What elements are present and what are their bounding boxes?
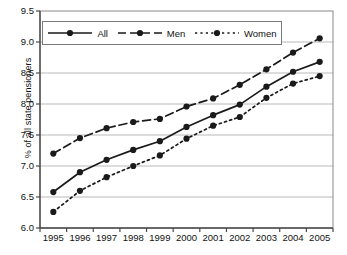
data-point <box>210 95 216 101</box>
data-point <box>77 169 83 175</box>
data-point <box>103 157 109 163</box>
legend-marker <box>137 30 143 36</box>
data-point <box>290 80 296 86</box>
chart-legend: AllMenWomen <box>42 21 282 45</box>
series-line-women <box>53 76 319 212</box>
data-point <box>183 136 189 142</box>
legend-swatch-men <box>117 27 163 39</box>
legend-label: Men <box>165 28 185 39</box>
legend-label: Women <box>242 28 277 39</box>
data-point <box>237 114 243 120</box>
data-point <box>77 188 83 194</box>
data-point <box>157 152 163 158</box>
data-point <box>50 189 56 195</box>
data-point <box>130 119 136 125</box>
legend-item-men[interactable]: Men <box>117 27 185 39</box>
data-point <box>130 147 136 153</box>
data-point <box>263 84 269 90</box>
data-point <box>290 69 296 75</box>
data-point <box>263 95 269 101</box>
legend-label: All <box>95 28 108 39</box>
data-point <box>317 73 323 79</box>
legend-marker <box>214 30 220 36</box>
data-point <box>237 82 243 88</box>
data-point <box>210 112 216 118</box>
data-point <box>317 35 323 41</box>
data-point <box>263 66 269 72</box>
legend-item-all[interactable]: All <box>47 27 108 39</box>
data-point <box>103 125 109 131</box>
data-point <box>183 124 189 130</box>
data-point <box>50 151 56 157</box>
legend-item-women[interactable]: Women <box>194 27 277 39</box>
data-point <box>183 103 189 109</box>
legend-marker <box>67 30 73 36</box>
data-point <box>157 116 163 122</box>
data-point <box>157 138 163 144</box>
data-point <box>77 135 83 141</box>
data-point <box>50 209 56 215</box>
legend-swatch-women <box>194 27 240 39</box>
data-point <box>317 59 323 65</box>
series-women <box>50 73 323 215</box>
legend-swatch-all <box>47 27 93 39</box>
data-point <box>210 123 216 129</box>
data-point <box>103 174 109 180</box>
series-all <box>50 59 323 195</box>
data-point <box>237 102 243 108</box>
line-chart: % of all state pensioners 9.59.08.58.07.… <box>0 0 347 255</box>
data-point <box>290 49 296 55</box>
data-point <box>130 163 136 169</box>
